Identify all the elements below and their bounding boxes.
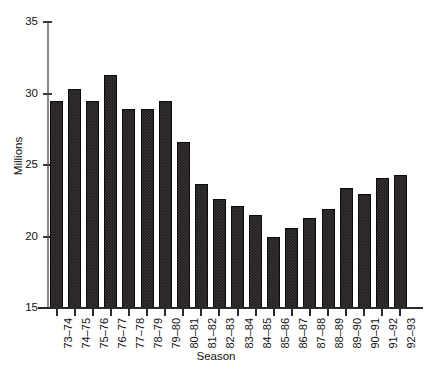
x-axis-tick xyxy=(218,309,220,316)
x-axis-tick-label: 90–91 xyxy=(369,318,381,349)
x-axis-tick-label: 76–77 xyxy=(116,318,128,349)
bar xyxy=(213,199,226,308)
x-axis-tick xyxy=(381,309,383,316)
y-axis-tick-label: 35 xyxy=(12,16,38,27)
x-axis-tick-label: 87–88 xyxy=(315,318,327,349)
x-axis-title: Season xyxy=(0,350,432,362)
x-axis-line xyxy=(38,307,423,309)
x-axis-tick xyxy=(110,309,112,316)
bar xyxy=(249,215,262,308)
x-axis-tick xyxy=(399,309,401,316)
y-axis-tick-label: 15 xyxy=(12,302,38,313)
x-axis-tick-label: 81–82 xyxy=(206,318,218,349)
bar xyxy=(322,209,335,308)
x-axis-tick xyxy=(237,309,239,316)
x-axis-tick-label: 89–90 xyxy=(351,318,363,349)
x-axis-tick xyxy=(74,309,76,316)
y-axis-tick xyxy=(43,21,52,23)
bar xyxy=(86,101,99,308)
x-axis-tick xyxy=(56,309,58,316)
x-axis-tick xyxy=(327,309,329,316)
bar xyxy=(303,218,316,308)
bar xyxy=(141,109,154,308)
x-axis-tick-label: 78–79 xyxy=(152,318,164,349)
x-axis-tick-label: 73–74 xyxy=(62,318,74,349)
x-axis-tick xyxy=(255,309,257,316)
bar xyxy=(285,228,298,308)
x-axis-tick-label: 82–83 xyxy=(224,318,236,349)
bar xyxy=(340,188,353,308)
x-axis-tick xyxy=(309,309,311,316)
x-axis-tick xyxy=(363,309,365,316)
x-axis-tick xyxy=(345,309,347,316)
x-axis-tick xyxy=(128,309,130,316)
bar xyxy=(267,237,280,309)
bar xyxy=(231,206,244,308)
y-axis-title: Millions xyxy=(12,121,24,191)
x-axis-tick-label: 84–85 xyxy=(261,318,273,349)
x-axis-tick-label: 86–87 xyxy=(297,318,309,349)
x-axis-tick xyxy=(146,309,148,316)
y-axis-tick-label: 20 xyxy=(12,231,38,242)
bar xyxy=(104,75,117,308)
bar xyxy=(195,184,208,308)
x-axis-tick-label: 75–76 xyxy=(98,318,110,349)
bar xyxy=(50,101,63,308)
x-axis-tick xyxy=(200,309,202,316)
x-axis-tick xyxy=(164,309,166,316)
x-axis-tick xyxy=(273,309,275,316)
bar xyxy=(376,178,389,308)
x-axis-tick xyxy=(182,309,184,316)
bar-chart: 3530252015 Millions 73–7474–7575–7676–77… xyxy=(0,0,432,371)
x-axis-tick-label: 77–78 xyxy=(134,318,146,349)
x-axis-tick-label: 91–92 xyxy=(387,318,399,349)
x-axis-tick-label: 79–80 xyxy=(170,318,182,349)
x-axis-tick-label: 80–81 xyxy=(188,318,200,349)
bar xyxy=(122,109,135,308)
x-axis-tick-label: 74–75 xyxy=(80,318,92,349)
bar xyxy=(159,101,172,308)
x-axis-tick-label: 85–86 xyxy=(279,318,291,349)
bar xyxy=(177,142,190,308)
x-axis-tick-label: 92–93 xyxy=(405,318,417,349)
bar xyxy=(394,175,407,308)
x-axis-tick xyxy=(291,309,293,316)
y-axis-tick xyxy=(43,93,52,95)
x-axis-tick-label: 83–84 xyxy=(243,318,255,349)
bar xyxy=(358,194,371,308)
y-axis-tick-label: 30 xyxy=(12,88,38,99)
bar xyxy=(68,89,81,308)
x-axis-tick-label: 88–89 xyxy=(333,318,345,349)
x-axis-tick xyxy=(92,309,94,316)
